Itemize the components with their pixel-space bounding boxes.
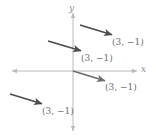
vectors-group <box>10 25 112 104</box>
vector-upper-left-arrow <box>48 41 81 51</box>
diagram-canvas <box>0 0 156 139</box>
x-axis-label: x <box>141 65 146 74</box>
vector-label-upper-left: (3, −1) <box>81 54 113 63</box>
vector-label-at-origin: (3, −1) <box>105 83 137 92</box>
vector-diagram-figure: y x (3, −1) (3, −1) (3, −1) (3, −1) <box>0 0 156 139</box>
vector-label-top-right: (3, −1) <box>112 38 144 47</box>
y-axis-label: y <box>69 4 74 13</box>
vector-top-right-arrow <box>80 25 112 35</box>
vector-lower-left-arrow <box>10 94 42 104</box>
vector-at-origin-arrow <box>73 71 105 81</box>
vector-label-lower-left: (3, −1) <box>42 107 74 116</box>
